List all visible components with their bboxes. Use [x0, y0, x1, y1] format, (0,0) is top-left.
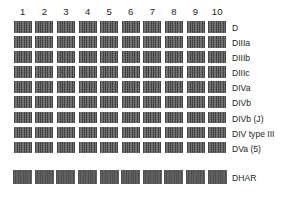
- gel-band: [57, 66, 75, 78]
- gel-band: [143, 96, 161, 108]
- gel-cell-slot: [55, 66, 77, 78]
- gel-band: [35, 170, 54, 184]
- gel-cell-slot: [12, 112, 34, 124]
- gel-cell-slot: [34, 21, 56, 33]
- column-header-8: 8: [163, 5, 185, 19]
- gel-band: [100, 96, 118, 108]
- gel-cell-slot: [55, 112, 77, 124]
- gel-cell-slot: [163, 112, 185, 124]
- gel-cell-slot: [163, 96, 185, 108]
- gel-band: [35, 127, 53, 139]
- gel-cell-slot: [142, 21, 164, 33]
- gel-cell-slot: [55, 36, 77, 48]
- gel-cell-slot: [12, 51, 34, 63]
- gel-band: [143, 127, 161, 139]
- gel-cell-slot: [34, 51, 56, 63]
- gel-cell-slot: [98, 66, 120, 78]
- gel-band: [100, 81, 118, 93]
- gel-cell-slot: [98, 21, 120, 33]
- gel-cell-slot: [120, 51, 142, 63]
- gel-band: [143, 51, 161, 63]
- gel-cell-slot: [206, 66, 228, 78]
- gel-band: [14, 51, 32, 63]
- column-header-2: 2: [34, 5, 56, 19]
- gel-band: [187, 36, 205, 48]
- gel-cell-slot: [163, 127, 185, 139]
- gel-cell-slot: [12, 96, 34, 108]
- gel-band: [35, 81, 53, 93]
- gel-band: [100, 142, 118, 154]
- gel-band: [165, 127, 183, 139]
- gel-band: [208, 51, 226, 63]
- gel-band: [143, 81, 161, 93]
- gel-cell-slot: [185, 51, 207, 63]
- gel-band: [79, 81, 97, 93]
- gel-cell-slot: [98, 81, 120, 93]
- gel-band: [56, 170, 75, 184]
- column-header-10: 10: [206, 5, 228, 19]
- gel-cell-slot: [98, 51, 120, 63]
- row-label: DIVb: [232, 96, 286, 111]
- gel-cell-slot: [142, 127, 164, 139]
- gel-band: [35, 51, 53, 63]
- gel-band: [100, 112, 118, 124]
- gel-cell-slot: [185, 127, 207, 139]
- gel-band: [165, 142, 183, 154]
- gel-panel-figure: 1 2 3 4 5 6 7 8 9 10 DDIIIaDIIIbDIIIcDIV…: [0, 0, 286, 197]
- gel-cell-slot: [120, 36, 142, 48]
- gel-cell-slot: [12, 170, 34, 184]
- gel-row: [12, 66, 228, 81]
- column-header-5: 5: [98, 5, 120, 19]
- gel-cell-slot: [142, 170, 164, 184]
- gel-band: [208, 112, 226, 124]
- column-header-4: 4: [77, 5, 99, 19]
- gel-cell-slot: [77, 21, 99, 33]
- gel-cell-slot: [77, 96, 99, 108]
- gel-cell-slot: [34, 170, 56, 184]
- gel-band: [208, 81, 226, 93]
- gel-band-grid: [12, 21, 228, 157]
- column-header-9: 9: [185, 5, 207, 19]
- gel-cell-slot: [77, 81, 99, 93]
- gel-band: [187, 21, 205, 33]
- gel-band: [165, 36, 183, 48]
- gel-row: [12, 81, 228, 96]
- gel-cell-slot: [185, 81, 207, 93]
- gel-band: [79, 112, 97, 124]
- gel-band: [165, 66, 183, 78]
- gel-row: [12, 127, 228, 142]
- gel-cell-slot: [98, 96, 120, 108]
- gel-cell-slot: [55, 96, 77, 108]
- gel-band: [14, 112, 32, 124]
- gel-band: [122, 66, 140, 78]
- column-header-3: 3: [55, 5, 77, 19]
- gel-cell-slot: [163, 51, 185, 63]
- gel-band: [13, 170, 32, 184]
- gel-cell-slot: [98, 170, 120, 184]
- gel-band: [57, 21, 75, 33]
- gel-row: [12, 112, 228, 127]
- gel-band: [122, 81, 140, 93]
- gel-cell-slot: [185, 96, 207, 108]
- gel-band: [186, 170, 205, 184]
- column-header-7: 7: [142, 5, 164, 19]
- gel-row: [12, 142, 228, 157]
- row-label: DIVb (J): [232, 112, 286, 127]
- gel-cell-slot: [77, 51, 99, 63]
- gel-band: [165, 51, 183, 63]
- gel-cell-slot: [34, 81, 56, 93]
- gel-band: [78, 170, 97, 184]
- row-label: DIV type III: [232, 127, 286, 142]
- gel-cell-slot: [120, 112, 142, 124]
- gel-cell-slot: [55, 21, 77, 33]
- gel-band: [14, 96, 32, 108]
- gel-cell-slot: [120, 66, 142, 78]
- control-band-row: [12, 170, 228, 186]
- gel-cell-slot: [185, 21, 207, 33]
- gel-cell-slot: [12, 81, 34, 93]
- gel-band: [208, 142, 226, 154]
- gel-band: [57, 142, 75, 154]
- gel-band: [14, 142, 32, 154]
- gel-band: [208, 21, 226, 33]
- gel-band: [187, 112, 205, 124]
